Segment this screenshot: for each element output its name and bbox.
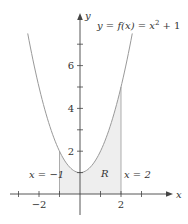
function-label: y = f(x) = x2 + 1 [96, 19, 180, 31]
y-axis-label: y [84, 10, 91, 21]
x-axis-label: x [176, 189, 182, 200]
y-tick-label: 2 [68, 146, 74, 157]
area-under-curve-figure: −22 x 246 y y = f(x) = x2 + 1 R x = −1 x… [0, 0, 188, 224]
function-label-prefix: y = f(x) = x [96, 20, 155, 31]
boundary-label-left: x = −1 [29, 169, 64, 180]
x-tick-label: −2 [32, 199, 47, 210]
y-tick-label: 4 [68, 103, 74, 114]
y-axis-tick-labels: 246 [68, 60, 74, 157]
function-label-suffix: + 1 [159, 20, 180, 31]
x-axis-arrow-icon [166, 191, 173, 197]
y-tick-label: 6 [68, 60, 74, 71]
region-label: R [100, 168, 109, 179]
boundary-label-right: x = 2 [124, 169, 151, 180]
x-axis-tick-labels: −22 [32, 199, 125, 210]
x-tick-label: 2 [118, 199, 124, 210]
y-axis-arrow-icon [77, 13, 83, 20]
